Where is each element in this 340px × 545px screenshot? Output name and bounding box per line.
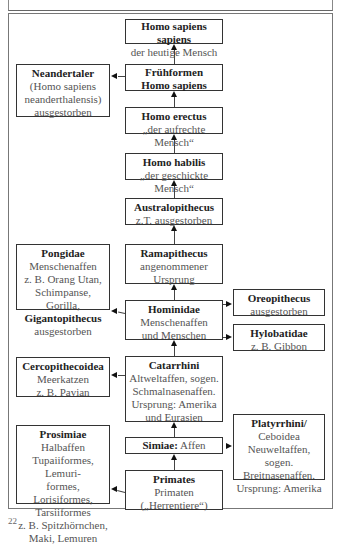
node-homo-habilis: Homo habilis „der geschickte Mensch“ — [125, 153, 223, 180]
node-title: Frühformen — [126, 66, 222, 79]
node-text: z. B. Spitzhörnchen, — [17, 519, 109, 532]
node-text: Ursprung: Amerika — [234, 482, 324, 495]
node-title: Platyrrhini/ — [234, 417, 324, 430]
arrow-right-icon — [226, 301, 232, 307]
node-title: Oreopithecus — [234, 292, 324, 305]
node-text: angenommener — [126, 260, 222, 273]
node-text: Breitnasenaffen. — [234, 469, 324, 482]
arrow-left-icon — [111, 372, 117, 378]
node-text: formes, Lorisiformes, — [17, 480, 109, 506]
node-oreopithecus: Oreopithecus ausgestorben — [233, 289, 325, 316]
node-title: Ramapithecus — [126, 247, 222, 260]
node-text: Menschenaffen — [17, 260, 109, 273]
node-text: Altweltaffen, sogen. — [126, 372, 222, 385]
arrow-up-icon — [171, 422, 177, 428]
arrow-up-icon — [171, 340, 177, 346]
node-hylobatidae: Hylobatidae z. B. Gibbon — [233, 324, 325, 351]
arrow-up-icon — [171, 180, 177, 186]
previous-panel-frame — [8, 0, 333, 11]
node-catarrhini: Catarrhini Altweltaffen, sogen. Schmalna… — [125, 356, 223, 422]
node-title: Neandertaler — [17, 67, 109, 80]
node-homo-sapiens-sapiens: Homo sapiens sapiens der heutige Mensch — [125, 19, 223, 44]
node-text: Ceboidea — [234, 430, 324, 443]
connector — [174, 290, 175, 300]
node-text: Menschenaffen — [126, 316, 222, 329]
arrow-left-icon — [111, 486, 117, 492]
node-text: Ursprung: Amerika — [126, 398, 222, 411]
node-text: („Herrentiere“) — [126, 499, 222, 512]
node-simiae: Simiae: Affen — [125, 437, 223, 454]
node-australopithecus: Australopithecus z.T. ausgestorben — [125, 198, 223, 225]
node-title: Homo erectus — [126, 110, 222, 123]
connector — [174, 428, 175, 437]
node-title: Hylobatidae — [234, 327, 324, 340]
node-text: Tupaiiformes, Lemuri- — [17, 454, 109, 480]
node-text: Maki, Lemuren — [17, 532, 109, 545]
node-text: Affen — [178, 439, 206, 451]
node-homo-erectus: Homo erectus „der aufrechte Mensch“ — [125, 107, 223, 134]
arrow-right-icon — [226, 443, 232, 449]
node-title: Hominidae — [126, 303, 222, 316]
arrow-right-icon — [226, 334, 232, 340]
node-text: Tarsiiformes — [17, 506, 109, 519]
arrow-up-icon — [171, 225, 177, 231]
node-text: Halbaffen — [17, 441, 109, 454]
node-title: Simiae: — [142, 439, 177, 451]
node-title: Catarrhini — [126, 359, 222, 372]
node-fruehformen: Frühformen Homo sapiens — [125, 64, 223, 91]
node-ramapithecus: Ramapithecus angenommener Ursprung — [125, 244, 223, 284]
node-primates: Primates Primaten („Herrentiere“) — [125, 470, 223, 510]
node-prosimiae: Prosimiae Halbaffen Tupaiiformes, Lemuri… — [16, 425, 110, 504]
node-pongidae: Pongidae Menschenaffen z. B. Orang Utan,… — [16, 244, 110, 310]
node-text: ausgestorben — [17, 106, 109, 119]
connector — [174, 140, 175, 153]
node-text: neanderthalensis) — [17, 93, 109, 106]
arrow-up-icon — [171, 134, 177, 140]
node-title: Pongidae — [17, 247, 109, 260]
node-title: Cercopithecoidea — [17, 360, 109, 373]
arrow-left-icon — [111, 308, 117, 314]
connector — [174, 346, 175, 356]
node-platyrrhini: Platyrrhini/ Ceboidea Neuweltaffen, soge… — [233, 414, 325, 480]
node-text: Primaten — [126, 486, 222, 499]
node-text: Neuweltaffen, sogen. — [234, 443, 324, 469]
node-hominidae: Hominidae Menschenaffen und Menschen — [125, 300, 223, 340]
connector — [118, 76, 125, 77]
node-text: Meerkatzen — [17, 373, 109, 386]
node-text: z. B. Gibbon — [234, 340, 324, 353]
connector — [174, 186, 175, 198]
node-title: Prosimiae — [17, 428, 109, 441]
connector — [118, 375, 125, 376]
node-text: Schimpanse, Gorilla, — [17, 286, 109, 312]
node-cercopithecoidea: Cercopithecoidea Meerkatzen z. B. Pavian — [16, 357, 110, 397]
connector — [174, 50, 175, 65]
arrow-up-icon — [171, 44, 177, 50]
node-text: Schmalnasenaffen. — [126, 385, 222, 398]
node-text: (Homo sapiens — [17, 80, 109, 93]
arrow-up-icon — [171, 454, 177, 460]
node-title: Homo habilis — [126, 156, 222, 169]
node-text: ausgestorben — [234, 305, 324, 318]
node-text: z. B. Pavian — [17, 386, 109, 399]
connector — [174, 231, 175, 244]
node-title: Primates — [126, 473, 222, 486]
arrow-up-icon — [171, 91, 177, 97]
node-title: Homo sapiens sapiens — [126, 20, 222, 46]
node-text: ausgestorben — [17, 325, 109, 338]
node-neandertaler: Neandertaler (Homo sapiens neanderthalen… — [16, 64, 110, 117]
node-label: Simiae: Affen — [126, 439, 222, 452]
connector — [174, 97, 175, 107]
node-title: Australopithecus — [126, 201, 222, 214]
node-title-2: Gigantopithecus — [17, 312, 109, 325]
connector — [174, 460, 175, 470]
arrow-left-icon — [111, 73, 117, 79]
arrow-up-icon — [171, 284, 177, 290]
node-text: z. B. Orang Utan, — [17, 273, 109, 286]
page-number: 22 — [8, 516, 17, 526]
